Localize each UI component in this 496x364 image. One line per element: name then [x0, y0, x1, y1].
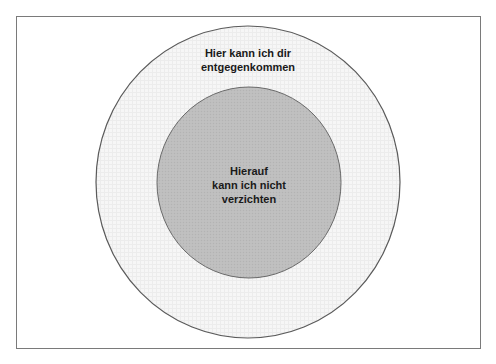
outer-circle-label: Hier kann ich dir entgegenkommen: [148, 46, 348, 74]
inner-label-line-2: kann ich nicht: [149, 178, 349, 192]
outer-label-line-2: entgegenkommen: [148, 60, 348, 74]
outer-label-line-1: Hier kann ich dir: [148, 46, 348, 60]
inner-circle-label: Hierauf kann ich nicht verzichten: [149, 164, 349, 206]
inner-label-line-1: Hierauf: [149, 164, 349, 178]
inner-label-line-3: verzichten: [149, 192, 349, 206]
